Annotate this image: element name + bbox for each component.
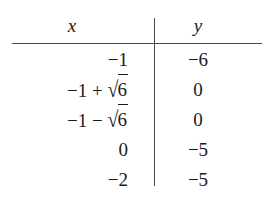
cell-x-value: −1 + √6 [8,75,128,105]
table-row: 0 −5 [0,135,266,165]
table-row: −2 −5 [0,165,266,195]
cell-y-value: 0 [168,105,228,135]
x-operator: − [92,110,103,131]
column-header-y: y [178,16,218,35]
x-prefix: −2 [108,169,128,190]
radicand: 6 [118,104,129,135]
table-row: −1 + √6 0 [0,75,266,105]
cell-x-value: −1 [8,45,128,75]
table-row: −1 −6 [0,45,266,75]
cell-y-value: 0 [168,75,228,105]
x-prefix: −1 [108,49,128,70]
cell-x-value: −1 − √6 [8,105,128,135]
x-prefix: 0 [119,139,129,160]
cell-y-value: −5 [168,165,228,195]
square-root-expression: √6 [108,75,128,106]
column-header-x: x [52,16,92,35]
math-table-figure: x y −1 −6 −1 + √6 0 −1 − √6 0 0 −5 −2 −5 [0,0,266,205]
cell-y-value: −5 [168,135,228,165]
x-prefix: −1 [67,110,87,131]
radicand: 6 [118,74,129,105]
cell-y-value: −6 [168,45,228,75]
table-row: −1 − √6 0 [0,105,266,135]
square-root-expression: √6 [108,105,128,136]
x-prefix: −1 [67,80,87,101]
x-operator: + [92,80,103,101]
cell-x-value: 0 [8,135,128,165]
cell-x-value: −2 [8,165,128,195]
header-divider-rule [12,43,262,44]
